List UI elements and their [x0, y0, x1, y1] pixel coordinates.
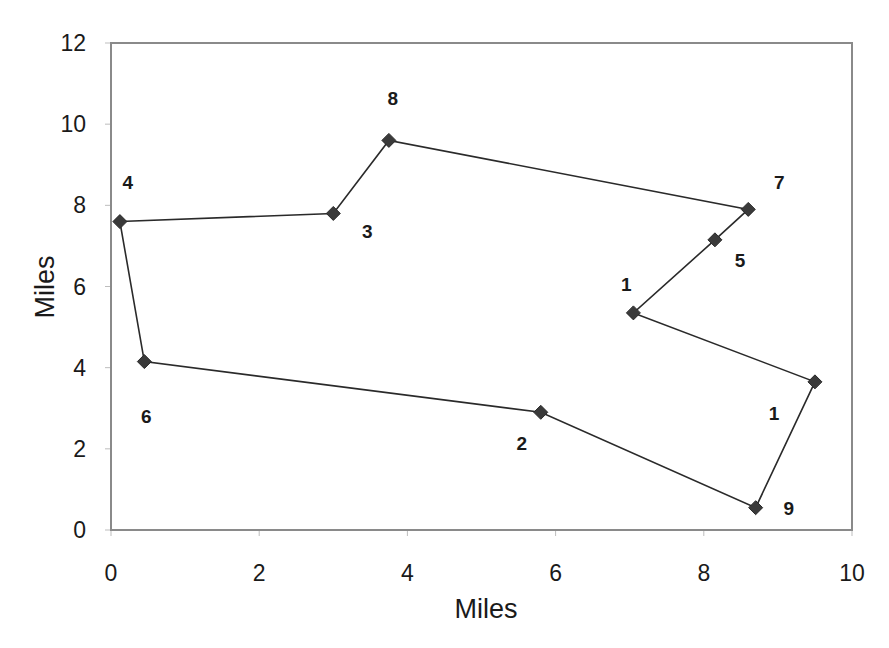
diamond-marker-icon: [749, 501, 763, 515]
point-label: 3: [362, 221, 373, 242]
diamond-marker-icon: [137, 355, 151, 369]
y-tick-label: 8: [73, 192, 86, 218]
point-label: 1: [621, 274, 632, 295]
y-tick-label: 4: [73, 355, 86, 381]
point-label: 1: [769, 403, 780, 424]
point-label: 5: [735, 250, 746, 271]
y-tick-label: 2: [73, 436, 86, 462]
data-markers: [113, 133, 822, 514]
x-tick-label: 8: [697, 560, 710, 586]
diamond-marker-icon: [382, 133, 396, 147]
point-label: 4: [123, 172, 134, 193]
axis-ticks: [105, 43, 852, 536]
diamond-marker-icon: [808, 375, 822, 389]
point-label: 6: [141, 406, 152, 427]
x-axis-title: Miles: [454, 594, 517, 624]
point-label: 7: [774, 172, 785, 193]
point-label: 2: [516, 433, 527, 454]
x-axis-tick-labels: 0246810: [105, 560, 865, 586]
y-axis-title: Miles: [30, 255, 60, 318]
route-scatter-chart: 024681012 0246810 4387511926 Miles Miles: [0, 0, 889, 648]
x-tick-label: 10: [839, 560, 865, 586]
diamond-marker-icon: [113, 215, 127, 229]
diamond-marker-icon: [326, 206, 340, 220]
y-tick-label: 0: [73, 517, 86, 543]
y-tick-label: 12: [60, 30, 86, 56]
point-label: 9: [783, 498, 794, 519]
diamond-marker-icon: [534, 405, 548, 419]
x-tick-label: 2: [253, 560, 266, 586]
y-axis-tick-labels: 024681012: [60, 30, 86, 543]
chart-canvas: 024681012 0246810 4387511926 Miles Miles: [0, 0, 889, 648]
x-tick-label: 0: [105, 560, 118, 586]
y-tick-label: 10: [60, 111, 86, 137]
route-line: [120, 140, 815, 507]
plot-area: [111, 43, 852, 530]
x-tick-label: 4: [401, 560, 414, 586]
x-tick-label: 6: [549, 560, 562, 586]
point-label: 8: [388, 88, 399, 109]
y-tick-label: 6: [73, 274, 86, 300]
